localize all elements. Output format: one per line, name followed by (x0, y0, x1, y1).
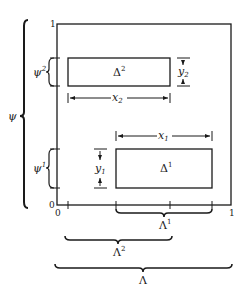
brace-psi2: ψ2 (33, 58, 60, 86)
rectangle-delta2: Δ2 (68, 58, 170, 86)
brace-lambda1: Λ1 (116, 209, 212, 232)
dimension-y2: y2 (177, 58, 190, 86)
x-axis-right-label: 1 (229, 208, 235, 218)
dimension-y1: y1 (94, 149, 107, 188)
delta2-label: Δ (113, 66, 121, 79)
svg-text:Δ2: Δ2 (113, 65, 125, 79)
svg-text:x2: x2 (112, 91, 123, 105)
diagram-canvas: 1 0 0 1 Δ2 x2 y2 Δ1 x1 (0, 0, 246, 291)
brace-lambda: Λ (55, 264, 232, 287)
svg-text:ψ: ψ (8, 110, 17, 123)
svg-text:Λ2: Λ2 (112, 245, 125, 259)
unit-square (57, 24, 231, 205)
svg-text:x1: x1 (158, 129, 169, 143)
y-axis-top-label: 1 (50, 19, 56, 29)
svg-text:ψ2: ψ2 (33, 65, 47, 79)
svg-text:ψ1: ψ1 (33, 161, 46, 175)
delta1-label: Δ (160, 162, 168, 175)
brace-lambda2: Λ2 (65, 236, 172, 259)
dimension-x2: x2 (68, 91, 170, 105)
svg-text:Δ1: Δ1 (160, 161, 172, 175)
svg-text:Λ: Λ (138, 274, 148, 287)
svg-text:y2: y2 (177, 65, 189, 79)
brace-psi1: ψ1 (33, 149, 60, 188)
x-axis-origin-label: 0 (55, 208, 61, 218)
brace-psi: ψ (8, 20, 28, 208)
dimension-x1: x1 (116, 129, 212, 143)
svg-text:y1: y1 (94, 162, 106, 176)
rectangle-delta1: Δ1 (116, 149, 212, 188)
svg-text:Λ1: Λ1 (158, 218, 171, 232)
